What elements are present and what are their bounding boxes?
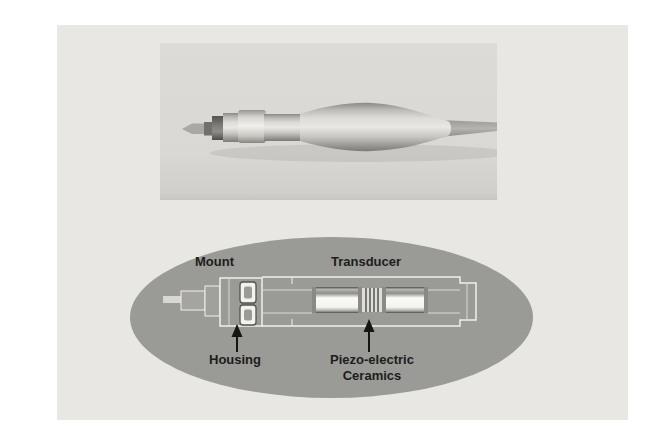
diagram-cylinder-rear-cap-left	[382, 287, 386, 313]
diagram-cylinder-rear	[382, 287, 428, 313]
diagram-mount-nut	[205, 286, 220, 316]
diagram-cylinder-front	[312, 287, 362, 313]
handpiece-photo	[160, 43, 497, 200]
diagram-tool-rod	[163, 296, 181, 303]
diagram-insert-bottom-core	[244, 310, 252, 321]
handpiece-image	[160, 43, 497, 200]
piezo-ceramics-label: Piezo-electric Ceramics	[319, 352, 425, 384]
diagram-mount-rod	[181, 291, 205, 310]
housing-label: Housing	[209, 352, 261, 368]
transducer-label: Transducer	[331, 254, 401, 270]
diagram-cylinder-front-cap-left	[312, 287, 316, 313]
diagram-piezo-stack	[362, 288, 382, 312]
handpiece-collar-band	[238, 110, 266, 143]
mount-label: Mount	[195, 254, 234, 270]
handpiece-neck	[264, 114, 302, 141]
piezo-label-line1: Piezo-electric	[330, 352, 414, 367]
handpiece-body	[300, 103, 451, 151]
handpiece-tip-band	[204, 122, 212, 136]
diagram-insert-top-core	[244, 287, 252, 299]
handpiece-front-cylinder	[223, 113, 240, 142]
piezo-label-line2: Ceramics	[343, 368, 402, 383]
handpiece-dark-collar	[212, 116, 223, 140]
diagram-cylinder-front-cap-right	[358, 287, 362, 313]
diagram-cylinder-rear-cap-right	[424, 287, 428, 313]
